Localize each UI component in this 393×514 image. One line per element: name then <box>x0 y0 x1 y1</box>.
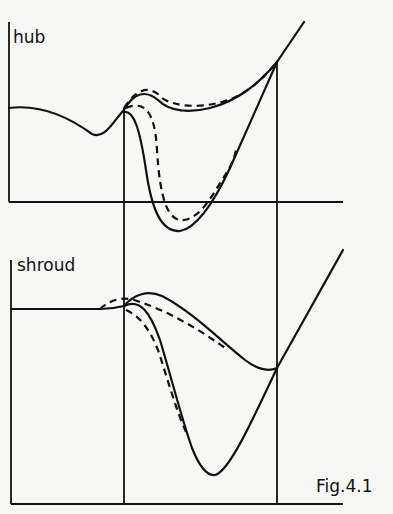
figure-canvas: hub shroud Fig.4.1 <box>0 0 393 514</box>
shroud-panel: shroud <box>11 250 343 504</box>
hub-pressure-dashed <box>126 106 236 220</box>
hub-label: hub <box>13 27 45 47</box>
hub-upstream-curve <box>9 107 124 135</box>
hub-pressure-solid <box>124 62 277 231</box>
shroud-suction-solid <box>124 250 343 370</box>
hub-panel: hub <box>9 22 343 231</box>
shroud-label: shroud <box>17 255 75 275</box>
hub-suction-dashed <box>124 64 275 108</box>
figure-caption: Fig.4.1 <box>316 476 373 496</box>
shroud-upstream-line <box>11 306 124 309</box>
